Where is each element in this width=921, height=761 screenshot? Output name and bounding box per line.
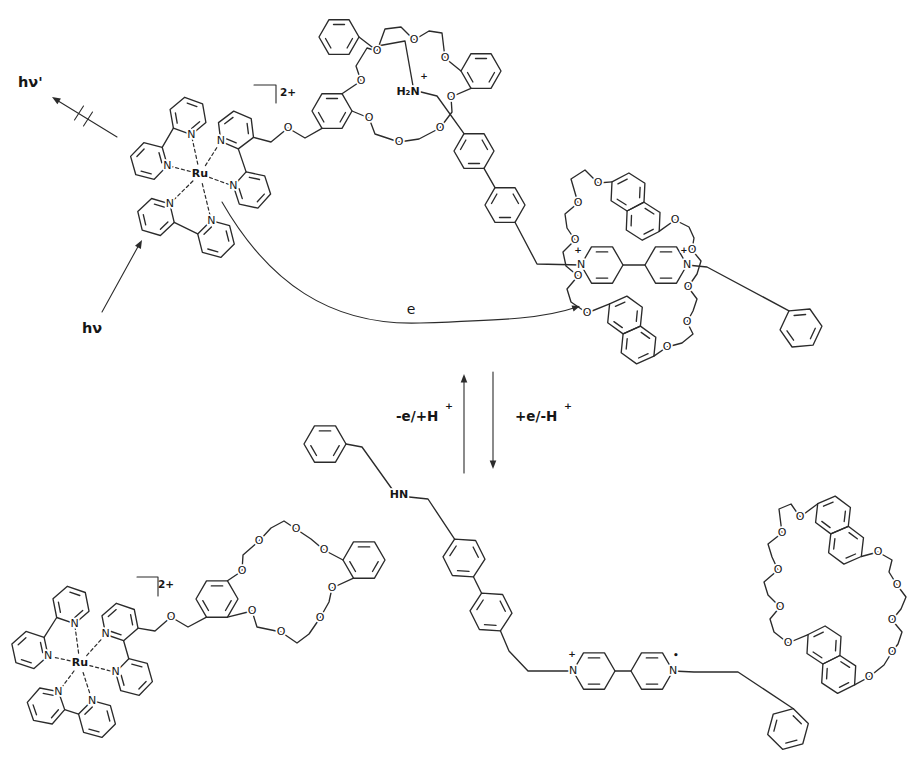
oxygen-label: O bbox=[671, 213, 680, 226]
amine-label: HN bbox=[390, 488, 408, 501]
oxygen-label: O bbox=[784, 636, 793, 649]
plus-charge-label: + bbox=[420, 71, 428, 81]
oxygen-label: O bbox=[436, 121, 445, 134]
reduction-sup-label: + bbox=[564, 400, 572, 411]
nitrogen-label: N bbox=[88, 694, 96, 707]
oxygen-label: O bbox=[574, 196, 583, 209]
oxygen-label: O bbox=[888, 645, 897, 658]
oxygen-label: O bbox=[874, 545, 883, 558]
nitrogen-label: N bbox=[44, 649, 52, 662]
molecular-machine-reaction-scheme: NNNNNNRuNNNNNNRu2+2+OOOOOOOOOH₂N+N+N+OOO… bbox=[0, 0, 921, 761]
nitrogen-label: N bbox=[166, 197, 174, 210]
oxygen-label: O bbox=[796, 510, 805, 523]
nitrogen-label: N bbox=[54, 685, 62, 698]
oxygen-label: O bbox=[167, 610, 176, 623]
oxygen-label: O bbox=[893, 578, 902, 591]
overall-charge-label: 2+ bbox=[158, 578, 174, 590]
oxygen-label: O bbox=[248, 604, 257, 617]
hv-prime-label: hν' bbox=[18, 74, 43, 90]
overall-charge-label: 2+ bbox=[280, 86, 296, 98]
oxygen-label: O bbox=[292, 522, 301, 535]
nitrogen-label: N bbox=[102, 627, 110, 640]
oxygen-label: O bbox=[238, 564, 247, 577]
hv-label: hν bbox=[82, 320, 102, 336]
oxygen-label: O bbox=[688, 243, 697, 256]
deprotonation-label: -e/+H bbox=[396, 408, 438, 424]
oxygen-label: O bbox=[373, 44, 382, 57]
nitrogen-label: N bbox=[683, 258, 691, 271]
oxygen-label: O bbox=[888, 613, 897, 626]
oxygen-label: O bbox=[328, 581, 337, 594]
nitrogen-label: N bbox=[229, 179, 237, 192]
ruthenium-label: Ru bbox=[72, 656, 88, 669]
oxygen-label: O bbox=[277, 625, 286, 638]
nitrogen-label: N bbox=[187, 128, 195, 141]
plus-charge-label: + bbox=[568, 649, 576, 659]
nitrogen-label: N bbox=[217, 134, 225, 147]
reduction-label: +e/-H bbox=[515, 408, 557, 424]
oxygen-label: O bbox=[574, 269, 583, 282]
plus-charge-label: + bbox=[574, 245, 582, 255]
oxygen-label: O bbox=[683, 315, 692, 328]
deprotonation-sup-label: + bbox=[445, 400, 453, 411]
oxygen-label: O bbox=[255, 534, 264, 547]
nitrogen-label: N bbox=[111, 665, 119, 678]
oxygen-label: O bbox=[865, 670, 874, 683]
electron-label: e bbox=[407, 301, 416, 317]
oxygen-label: O bbox=[663, 340, 672, 353]
oxygen-label: O bbox=[778, 526, 787, 539]
nitrogen-label: N bbox=[163, 159, 171, 172]
oxygen-label: O bbox=[447, 90, 456, 103]
oxygen-label: O bbox=[357, 74, 366, 87]
oxygen-label: O bbox=[583, 306, 592, 319]
oxygen-label: O bbox=[365, 111, 374, 124]
oxygen-label: O bbox=[320, 543, 329, 556]
nitrogen-label: N bbox=[669, 664, 677, 677]
ammonium-label: H₂N bbox=[396, 85, 419, 98]
plus-charge-label: + bbox=[680, 245, 688, 255]
oxygen-label: O bbox=[410, 33, 419, 46]
oxygen-label: O bbox=[774, 563, 783, 576]
nitrogen-label: N bbox=[71, 617, 79, 630]
ruthenium-label: Ru bbox=[192, 167, 208, 180]
oxygen-label: O bbox=[571, 233, 580, 246]
radical-dot-label: • bbox=[673, 650, 679, 660]
oxygen-label: O bbox=[684, 280, 693, 293]
oxygen-label: O bbox=[316, 611, 325, 624]
scheme-page: NNNNNNRuNNNNNNRu2+2+OOOOOOOOOH₂N+N+N+OOO… bbox=[0, 0, 921, 761]
oxygen-label: O bbox=[284, 121, 293, 134]
nitrogen-label: N bbox=[569, 664, 577, 677]
oxygen-label: O bbox=[395, 135, 404, 148]
oxygen-label: O bbox=[776, 600, 785, 613]
nitrogen-label: N bbox=[207, 214, 215, 227]
oxygen-label: O bbox=[594, 176, 603, 189]
oxygen-label: O bbox=[441, 51, 450, 64]
